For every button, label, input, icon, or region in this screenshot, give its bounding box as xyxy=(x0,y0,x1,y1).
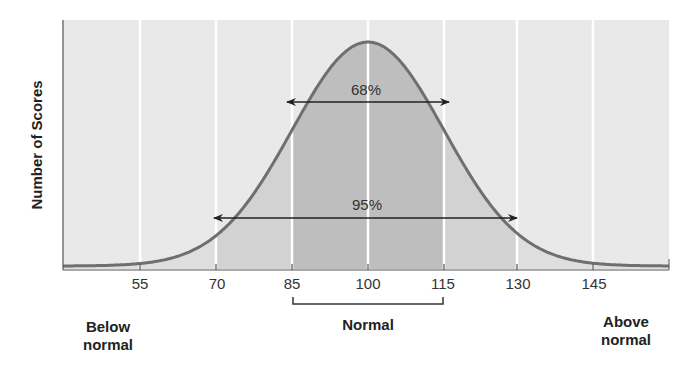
below-normal-line2: normal xyxy=(72,336,144,354)
y-axis-label: Number of Scores xyxy=(28,80,45,209)
below-normal-label: Below normal xyxy=(72,318,144,354)
tick-label-100: 100 xyxy=(355,275,380,292)
x-tick-labels: 55 70 85 100 115 130 145 xyxy=(132,275,607,292)
normal-bracket xyxy=(293,297,443,304)
above-normal-label: Above normal xyxy=(590,313,662,349)
tick-label-115: 115 xyxy=(431,275,455,292)
above-normal-line1: Above xyxy=(590,313,662,331)
tick-label-70: 70 xyxy=(209,275,226,292)
tick-label-145: 145 xyxy=(581,275,606,292)
below-normal-line1: Below xyxy=(72,318,144,336)
above-normal-line2: normal xyxy=(590,331,662,349)
tick-label-85: 85 xyxy=(284,275,301,292)
label-68-percent: 68% xyxy=(351,81,381,98)
tick-label-55: 55 xyxy=(132,275,149,292)
normal-label: Normal xyxy=(328,316,408,334)
label-95-percent: 95% xyxy=(352,196,382,213)
tick-label-130: 130 xyxy=(505,275,530,292)
